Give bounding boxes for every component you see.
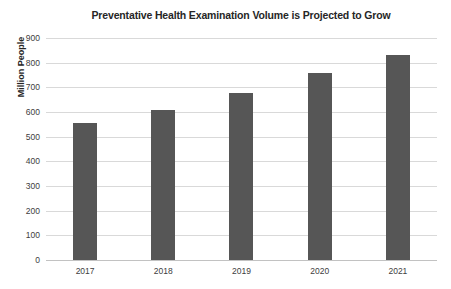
bar-group: 2019 [202,38,280,260]
bar-group: 2021 [359,38,437,260]
y-tick-label: 800 [26,58,40,68]
bar-chart: Preventative Health Examination Volume i… [0,0,451,289]
bar [73,123,97,260]
x-tick-label: 2019 [202,266,280,276]
x-tick-label: 2017 [46,266,124,276]
x-axis-line: 0 [46,260,437,261]
bar-group: 2020 [281,38,359,260]
x-tick-label: 2021 [359,266,437,276]
bar [151,110,175,260]
y-tick-label: 300 [26,181,40,191]
bar-group: 2018 [124,38,202,260]
bar-group: 2017 [46,38,124,260]
y-tick-label: 500 [26,132,40,142]
y-tick-label: 700 [26,82,40,92]
y-tick-label: 200 [26,206,40,216]
chart-title: Preventative Health Examination Volume i… [45,9,437,21]
y-tick-label: 0 [35,255,40,265]
x-tick-label: 2020 [281,266,359,276]
x-tick-label: 2018 [124,266,202,276]
y-tick-label: 400 [26,156,40,166]
y-tick-label: 900 [26,33,40,43]
plot-area: 9008007006005004003002001000 20172018201… [46,38,437,260]
bar [229,93,253,260]
y-tick-label: 100 [26,230,40,240]
bar [308,73,332,260]
bars: 20172018201920202021 [46,38,437,260]
bar [386,55,410,260]
y-tick-label: 600 [26,107,40,117]
